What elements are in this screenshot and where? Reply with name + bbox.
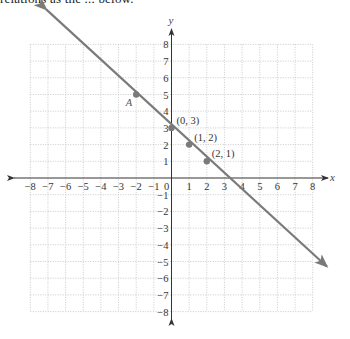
data-point — [204, 158, 210, 164]
y-tick-label: −1 — [157, 190, 168, 201]
y-tick-label: −4 — [157, 240, 169, 251]
point-label: A — [125, 97, 133, 108]
point-label: (0, 3) — [177, 115, 200, 127]
y-tick-label: 4 — [163, 106, 169, 117]
x-tick-label: −3 — [113, 181, 124, 192]
point-label: (2, 1) — [212, 148, 235, 160]
x-tick-label: −4 — [95, 181, 107, 192]
axes: xy — [14, 14, 335, 319]
x-tick-label: 2 — [204, 181, 209, 192]
x-tick-label: 8 — [310, 181, 315, 192]
y-tick-label: −6 — [157, 273, 168, 284]
y-tick-label: 1 — [163, 156, 168, 167]
data-point — [168, 125, 174, 131]
x-tick-label: 1 — [187, 181, 192, 192]
y-tick-label: −3 — [157, 223, 168, 234]
y-tick-label: 2 — [163, 140, 168, 151]
y-tick-label: −5 — [157, 257, 168, 268]
y-tick-label: 7 — [163, 56, 168, 67]
x-axis-label: x — [329, 171, 335, 183]
x-tick-label: 6 — [275, 181, 280, 192]
y-tick-label: −8 — [157, 307, 168, 318]
x-tick-label: −6 — [60, 181, 71, 192]
y-tick-label: 5 — [163, 90, 168, 101]
x-tick-label: −2 — [131, 181, 142, 192]
x-tick-label: 5 — [257, 181, 262, 192]
y-tick-label: 6 — [163, 73, 168, 84]
x-tick-label: 7 — [292, 181, 297, 192]
x-tick-label: −5 — [78, 181, 89, 192]
data-point — [186, 141, 192, 147]
y-tick-label: −7 — [157, 290, 168, 301]
x-tick-label: −7 — [42, 181, 53, 192]
y-tick-label: −2 — [157, 206, 168, 217]
x-tick-label: 3 — [222, 181, 227, 192]
coordinate-plane-chart: xy −8−7−6−5−4−3−2−1012345678−8−7−6−5−4−3… — [0, 0, 350, 339]
y-tick-label: 8 — [163, 39, 168, 50]
y-tick-label: 3 — [163, 123, 168, 134]
x-tick-label: −8 — [25, 181, 36, 192]
point-label: (1, 2) — [194, 132, 217, 144]
y-axis-label: y — [168, 14, 174, 26]
data-point — [133, 91, 139, 97]
